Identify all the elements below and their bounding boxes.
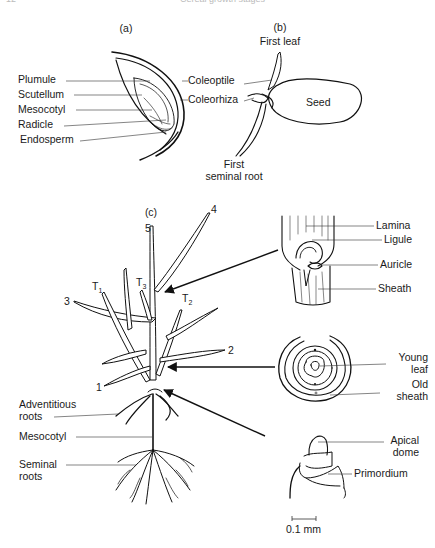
- leaf-number-2: 2: [228, 344, 234, 356]
- label-first-leaf: First leaf: [260, 35, 300, 47]
- tiller-label-t1: T1: [92, 280, 102, 294]
- label-radicle: Radicle: [18, 118, 53, 130]
- leaf-number-1: 1: [96, 381, 102, 393]
- label-adventitious-roots: roots: [19, 410, 42, 422]
- panel-b-label: (b): [274, 21, 287, 33]
- scale-bar: 0.1 mm: [286, 516, 321, 535]
- label-seed: Seed: [306, 96, 331, 108]
- detail-shoot-apex: Apical dome Primordium 0.1 mm: [286, 434, 419, 535]
- label-seminal: Seminal: [19, 458, 57, 470]
- label-scutellum: Scutellum: [18, 88, 64, 100]
- label-seminal-roots: roots: [19, 470, 42, 482]
- panel-c-seedling-plant: (c): [19, 203, 278, 504]
- label-mesocotyl-seed: Mesocotyl: [18, 103, 65, 115]
- label-first: First: [224, 158, 244, 170]
- panel-a-seed-section: (a) Plumule Scutellum Mesocotyl Radicle …: [18, 22, 238, 160]
- label-old: Old: [412, 378, 429, 390]
- label-old-sheath: sheath: [396, 390, 428, 402]
- scale-bar-label: 0.1 mm: [286, 523, 321, 535]
- seminal-root-system: [116, 450, 194, 504]
- panel-a-label: (a): [120, 22, 133, 34]
- label-coleorhiza: Coleorhiza: [188, 93, 238, 105]
- label-sheath: Sheath: [378, 282, 411, 294]
- leaf-number-4: 4: [211, 203, 217, 215]
- label-mesocotyl-plant: Mesocotyl: [19, 430, 66, 442]
- leaf-number-3: 3: [64, 295, 70, 307]
- label-auricle: Auricle: [380, 258, 412, 270]
- label-lamina: Lamina: [376, 219, 411, 231]
- label-young-leaf: leaf: [411, 363, 428, 375]
- tiller-label-t2: T2: [182, 292, 192, 306]
- label-coleoptile: Coleoptile: [188, 74, 235, 86]
- label-apical-dome: dome: [393, 446, 419, 458]
- tiller-label-t3: T3: [136, 276, 146, 290]
- leaf-number-5: 5: [145, 222, 151, 234]
- detail-ligule-auricle: Lamina Ligule Auricle Sheath: [282, 216, 412, 305]
- label-adventitious: Adventitious: [19, 398, 76, 410]
- label-primordium: Primordium: [354, 467, 408, 479]
- label-endosperm: Endosperm: [20, 133, 74, 145]
- label-apical: Apical: [390, 434, 419, 446]
- panel-c-label: (c): [145, 206, 157, 218]
- label-plumule: Plumule: [18, 73, 56, 85]
- label-seminal-root: seminal root: [205, 170, 262, 182]
- label-ligule: Ligule: [384, 233, 412, 245]
- detail-cross-section: Young leaf Old sheath: [279, 336, 428, 402]
- cereal-seedling-diagram: (a) Plumule Scutellum Mesocotyl Radicle …: [0, 0, 435, 548]
- arrow-to-apex: [164, 390, 265, 436]
- label-young: Young: [399, 351, 429, 363]
